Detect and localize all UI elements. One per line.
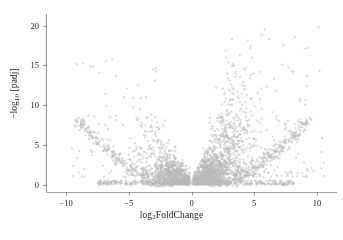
volcano-plot-figure: −10−50510 05101520 log2FoldChange −log10… bbox=[0, 0, 343, 240]
x-axis-title: log2FoldChange bbox=[0, 210, 343, 221]
y-axis-title: −log10 [padj] bbox=[9, 39, 20, 149]
y-tick-label: 10 bbox=[31, 100, 40, 110]
y-tick-label: 15 bbox=[31, 60, 40, 70]
y-axis-title-subscript: 10 bbox=[13, 94, 21, 101]
x-tick-label: −5 bbox=[124, 198, 133, 208]
x-tick-label: −10 bbox=[59, 198, 72, 208]
x-axis-title-suffix: FoldChange bbox=[156, 210, 203, 220]
x-tick-label: 0 bbox=[189, 198, 193, 208]
x-tick-label: 10 bbox=[313, 198, 322, 208]
y-axis-title-suffix: [padj] bbox=[9, 68, 19, 94]
y-tick-label: 20 bbox=[31, 21, 40, 31]
y-tick-label: 5 bbox=[35, 140, 39, 150]
y-tick-label: 0 bbox=[35, 180, 39, 190]
y-axis-title-prefix: −log bbox=[9, 101, 19, 119]
x-tick-label: 5 bbox=[252, 198, 256, 208]
x-axis-title-prefix: log bbox=[140, 210, 152, 220]
scatter-plot-canvas bbox=[0, 0, 343, 240]
